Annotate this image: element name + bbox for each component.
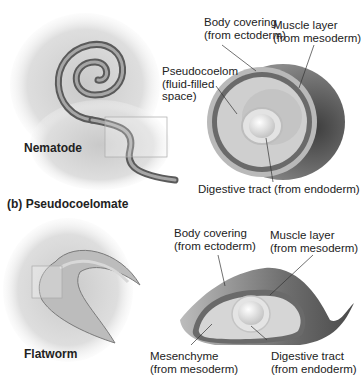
pseudocoelom-label: Pseudocoelom (fluid-filled space)	[162, 65, 238, 103]
flatworm-cross-section	[180, 255, 354, 345]
flatworm-muscle-layer-label: Muscle layer (from mesoderm)	[270, 229, 358, 254]
nematode-digestive-tract-label: Digestive tract (from endoderm)	[198, 183, 360, 196]
flatworm-digestive-tract-label: Digestive tract (from endoderm)	[271, 350, 357, 375]
flatworm-illustration	[3, 218, 140, 362]
flatworm-label: Flatworm	[24, 348, 77, 361]
mesenchyme-label: Mesenchyme (from mesoderm)	[150, 350, 238, 375]
section-heading: (b) Pseudocoelomate	[7, 198, 128, 211]
nematode-label: Nematode	[24, 142, 82, 155]
nematode-muscle-layer-label: Muscle layer (from mesoderm)	[273, 19, 361, 44]
flatworm-body-covering-label: Body covering (from ectoderm)	[174, 227, 256, 252]
nematode-illustration	[10, 13, 175, 190]
